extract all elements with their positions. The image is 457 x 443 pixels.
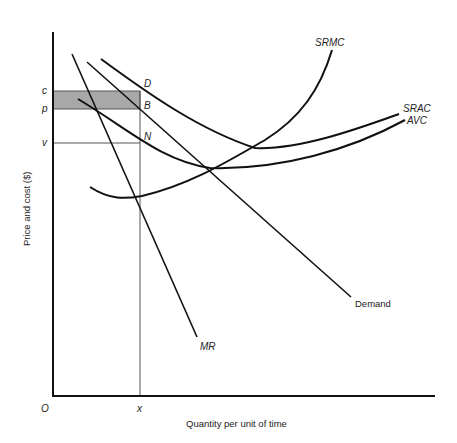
cost-curves-chart: SRMC SRAC AVC Demand MR D B N c p v O x … bbox=[0, 0, 457, 443]
origin-label: O bbox=[41, 403, 49, 414]
mr-label: MR bbox=[200, 341, 216, 352]
y-axis-title: Price and cost ($) bbox=[21, 172, 32, 246]
demand-label: Demand bbox=[355, 298, 391, 309]
y-tick-v: v bbox=[42, 137, 48, 148]
point-n-label: N bbox=[144, 131, 152, 142]
y-tick-p: p bbox=[41, 103, 48, 114]
point-d-label: D bbox=[144, 78, 151, 89]
srac-label: SRAC bbox=[403, 103, 432, 114]
srmc-label: SRMC bbox=[315, 37, 345, 48]
point-b-label: B bbox=[144, 100, 151, 111]
avc-label: AVC bbox=[406, 115, 428, 126]
x-axis-title: Quantity per unit of time bbox=[186, 418, 287, 429]
x-tick-x: x bbox=[136, 403, 143, 414]
y-tick-c: c bbox=[42, 85, 47, 96]
loss-area bbox=[53, 91, 140, 109]
